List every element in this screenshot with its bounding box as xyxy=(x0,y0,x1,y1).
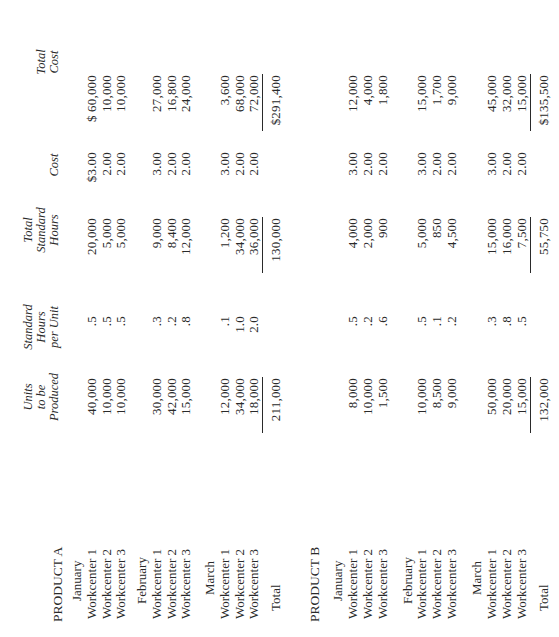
units-value: 20,000 xyxy=(499,378,514,415)
cost-value: 2.00 xyxy=(360,152,375,176)
units-value: 12,000 xyxy=(217,378,232,415)
workcenter-label: Workcenter 3 xyxy=(178,549,193,619)
total-cost-value: 3,600 xyxy=(217,75,232,105)
workcenter-label: Workcenter 3 xyxy=(246,549,261,619)
cost-value: 2.00 xyxy=(246,152,261,176)
product-label: PRODUCT B xyxy=(307,547,322,622)
total-std-hours-value: 9,000 xyxy=(149,218,164,248)
total-cost-total: $291,400 xyxy=(268,75,283,125)
std-hours-per-unit-value: .8 xyxy=(499,316,514,326)
table-row: Workcenter 1 12,000 .1 1,200 3.00 3,600 xyxy=(217,0,232,637)
month-row: February xyxy=(134,0,149,637)
total-cost-value: 32,000 xyxy=(499,75,514,112)
units-value: 34,000 xyxy=(232,378,247,415)
workcenter-label: Workcenter 2 xyxy=(164,549,179,619)
total-std-hours-total: 55,750 xyxy=(536,218,551,255)
total-cost-value: 45,000 xyxy=(484,75,499,112)
cost-value: 2.00 xyxy=(178,152,193,176)
total-cost-value: 24,000 xyxy=(178,75,193,112)
total-cost-value: 15,000 xyxy=(414,75,429,112)
table-row: Workcenter 1 40,000 .5 20,000 $3.00 $ 60… xyxy=(84,0,99,637)
rotated-production-cost-table: Units to be Produced Standard Hours per … xyxy=(0,0,559,637)
table-row: Workcenter 1 10,000 .5 5,000 3.00 15,000 xyxy=(414,0,429,637)
total-row: Total 211,000 130,000 $291,400 xyxy=(268,0,283,637)
total-std-hours-value: 1,200 xyxy=(217,218,232,248)
std-hours-per-unit-value: .3 xyxy=(484,316,499,326)
total-cost-value: 4,000 xyxy=(360,75,375,105)
total-std-hours-value: 4,000 xyxy=(345,218,360,248)
workcenter-label: Workcenter 1 xyxy=(217,549,232,619)
total-std-hours-value: 5,000 xyxy=(414,218,429,248)
total-rule xyxy=(530,217,531,273)
std-hours-per-unit-value: .5 xyxy=(99,316,114,326)
total-cost-value: 27,000 xyxy=(149,75,164,112)
total-std-hours-value: 20,000 xyxy=(84,218,99,255)
units-value: 30,000 xyxy=(149,378,164,415)
units-total: 132,000 xyxy=(536,378,551,422)
std-hours-per-unit-value: 1.0 xyxy=(232,316,247,333)
table-row: Workcenter 3 1,500 .6 900 2.00 1,800 xyxy=(375,0,390,637)
cost-value: 2.00 xyxy=(429,152,444,176)
total-std-hours-total: 130,000 xyxy=(268,218,283,262)
table-row: Workcenter 1 30,000 .3 9,000 3.00 27,000 xyxy=(149,0,164,637)
month-row: January xyxy=(330,0,345,637)
total-cost-value: 10,000 xyxy=(113,75,128,112)
cost-value: 3.00 xyxy=(345,152,360,176)
cost-value: 2.00 xyxy=(514,152,529,176)
section-row: PRODUCT A xyxy=(50,0,65,637)
total-cost-value: 9,000 xyxy=(444,75,459,105)
cost-value: 2.00 xyxy=(499,152,514,176)
workcenter-label: Workcenter 2 xyxy=(99,549,114,619)
units-value: 10,000 xyxy=(99,378,114,415)
units-value: 10,000 xyxy=(414,378,429,415)
workcenter-label: Workcenter 2 xyxy=(499,549,514,619)
total-std-hours-value: 7,500 xyxy=(514,218,529,248)
std-hours-per-unit-value: .5 xyxy=(414,316,429,326)
total-std-hours-value: 850 xyxy=(429,218,444,238)
std-hours-per-unit-value: 2.0 xyxy=(246,316,261,333)
workcenter-label: Workcenter 1 xyxy=(414,549,429,619)
cost-value: 2.00 xyxy=(375,152,390,176)
total-std-hours-value: 4,500 xyxy=(444,218,459,248)
table-row: Workcenter 3 18,000 2.0 36,000 2.00 72,0… xyxy=(246,0,261,637)
total-rule xyxy=(262,377,263,433)
table-row: Workcenter 3 9,000 .2 4,500 2.00 9,000 xyxy=(444,0,459,637)
total-label: Total xyxy=(536,584,551,611)
units-value: 50,000 xyxy=(484,378,499,415)
month-label: January xyxy=(69,561,84,601)
units-value: 18,000 xyxy=(246,378,261,415)
table-row: Workcenter 1 8,000 .5 4,000 3.00 12,000 xyxy=(345,0,360,637)
total-cost-value: 10,000 xyxy=(99,75,114,112)
workcenter-label: Workcenter 1 xyxy=(345,549,360,619)
table-row: Workcenter 2 10,000 .5 5,000 2.00 10,000 xyxy=(99,0,114,637)
month-row: March xyxy=(202,0,217,637)
section-row: PRODUCT B xyxy=(307,0,322,637)
units-value: 1,500 xyxy=(375,378,390,408)
workcenter-label: Workcenter 1 xyxy=(149,549,164,619)
cost-value: 3.00 xyxy=(149,152,164,176)
cost-value: 3.00 xyxy=(217,152,232,176)
table-row: Workcenter 1 50,000 .3 15,000 3.00 45,00… xyxy=(484,0,499,637)
month-label: January xyxy=(330,561,345,601)
std-hours-per-unit-value: .1 xyxy=(217,316,232,326)
units-value: 8,000 xyxy=(345,378,360,408)
units-value: 15,000 xyxy=(178,378,193,415)
std-hours-per-unit-value: .6 xyxy=(375,316,390,326)
units-value: 15,000 xyxy=(514,378,529,415)
workcenter-label: Workcenter 3 xyxy=(375,549,390,619)
total-std-hours-value: 2,000 xyxy=(360,218,375,248)
std-hours-per-unit-value: .2 xyxy=(360,316,375,326)
total-std-hours-value: 16,000 xyxy=(499,218,514,255)
workcenter-label: Workcenter 3 xyxy=(444,549,459,619)
month-label: February xyxy=(400,557,415,604)
table-row: Workcenter 2 34,000 1.0 34,000 2.00 68,0… xyxy=(232,0,247,637)
units-value: 10,000 xyxy=(360,378,375,415)
total-cost-value: 1,800 xyxy=(375,75,390,105)
table-row: Workcenter 2 42,000 .2 8,400 2.00 16,800 xyxy=(164,0,179,637)
units-value: 8,500 xyxy=(429,378,444,408)
total-std-hours-value: 34,000 xyxy=(232,218,247,255)
table-row: Workcenter 3 15,000 .5 7,500 2.00 15,000 xyxy=(514,0,529,637)
std-hours-per-unit-value: .5 xyxy=(113,316,128,326)
total-std-hours-value: 36,000 xyxy=(246,218,261,255)
month-row: March xyxy=(469,0,484,637)
